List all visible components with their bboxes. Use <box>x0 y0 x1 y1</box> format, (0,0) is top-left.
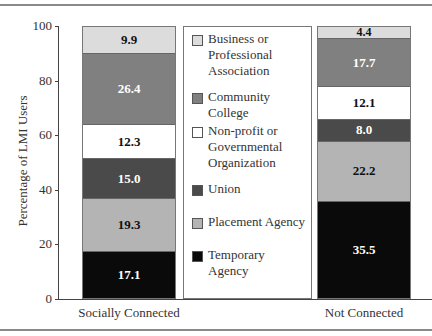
segment-value-label: 22.2 <box>353 163 376 179</box>
bar-not-connected: 35.522.28.012.117.74.4 <box>317 26 411 299</box>
legend-swatch-icon <box>192 35 203 46</box>
bar-segment-placement-agency: 19.3 <box>83 199 175 251</box>
segment-value-label: 4.4 <box>357 25 372 40</box>
y-tick-label: 60 <box>22 128 52 141</box>
bar-segment-placement-agency: 22.2 <box>318 142 410 202</box>
legend-label-line: Business or <box>208 31 272 47</box>
segment-value-label: 8.0 <box>356 122 372 138</box>
y-tick-mark <box>55 190 59 191</box>
y-tick-label: 80 <box>22 74 52 87</box>
bar-segment-union: 15.0 <box>83 159 175 200</box>
y-tick-mark <box>55 26 59 27</box>
x-axis-line <box>55 299 432 300</box>
legend-label-line: Non-profit or <box>208 123 282 139</box>
segment-value-label: 35.5 <box>353 242 376 258</box>
segment-value-label: 19.3 <box>118 217 141 233</box>
bar-segment-non-profit-or-governmental-organization: 12.1 <box>318 87 410 120</box>
bar-segment-non-profit-or-governmental-organization: 12.3 <box>83 125 175 158</box>
legend-swatch-icon <box>192 93 203 104</box>
legend: Business orProfessionalAssociationCommun… <box>183 26 312 299</box>
legend-label-line: Professional <box>208 47 272 63</box>
bar-segment-community-college: 17.7 <box>318 39 410 87</box>
legend-swatch-icon <box>192 251 203 262</box>
legend-item-non-profit-or-governmental-organization: Non-profit orGovernmentalOrganization <box>192 123 307 171</box>
legend-label: Community College <box>208 89 307 121</box>
legend-item-community-college: Community College <box>192 89 307 121</box>
bottom-rule <box>0 329 432 331</box>
legend-label-line: Placement Agency <box>208 214 305 230</box>
segment-value-label: 17.7 <box>353 55 376 71</box>
bar-segment-business-or-professional-association: 9.9 <box>83 27 175 54</box>
segment-value-label: 26.4 <box>118 81 141 97</box>
bar-segment-temporary-agency: 17.1 <box>83 252 175 298</box>
legend-swatch-icon <box>192 127 203 138</box>
legend-item-placement-agency: Placement Agency <box>192 214 307 230</box>
y-tick-label: 40 <box>22 183 52 196</box>
y-axis-label: Percentage of LMI Users <box>15 76 31 246</box>
bar-socially-connected: 17.119.315.012.326.49.9 <box>82 26 176 299</box>
legend-label-line: Temporary Agency <box>208 247 307 279</box>
segment-value-label: 12.3 <box>118 134 141 150</box>
x-label-socially-connected: Socially Connected <box>72 305 186 321</box>
legend-label-line: Association <box>208 63 272 79</box>
legend-label: Placement Agency <box>208 214 305 230</box>
y-tick-label: 0 <box>22 292 52 305</box>
x-label-not-connected: Not Connected <box>310 305 418 321</box>
y-tick-mark <box>55 81 59 82</box>
y-tick-mark <box>55 135 59 136</box>
legend-label-line: Organization <box>208 155 282 171</box>
y-tick-mark <box>55 299 59 300</box>
y-axis-line <box>58 26 59 300</box>
segment-value-label: 9.9 <box>121 32 137 48</box>
top-rule <box>0 4 432 6</box>
bar-segment-union: 8.0 <box>318 120 410 142</box>
segment-value-label: 12.1 <box>353 95 376 111</box>
legend-item-temporary-agency: Temporary Agency <box>192 247 307 279</box>
legend-swatch-icon <box>192 218 203 229</box>
legend-swatch-icon <box>192 185 203 196</box>
legend-label-line: Community College <box>208 89 307 121</box>
bar-segment-temporary-agency: 35.5 <box>318 202 410 298</box>
bar-segment-community-college: 26.4 <box>83 54 175 126</box>
segment-value-label: 15.0 <box>118 171 141 187</box>
y-tick-label: 100 <box>22 19 52 32</box>
legend-label: Business orProfessionalAssociation <box>208 31 272 79</box>
y-tick-label: 20 <box>22 237 52 250</box>
legend-item-business-or-professional-association: Business orProfessionalAssociation <box>192 31 307 79</box>
bar-segment-business-or-professional-association: 4.4 <box>318 27 410 39</box>
legend-label: Non-profit orGovernmentalOrganization <box>208 123 282 171</box>
legend-label-line: Governmental <box>208 139 282 155</box>
legend-label-line: Union <box>208 181 241 197</box>
segment-value-label: 17.1 <box>118 267 141 283</box>
legend-label: Union <box>208 181 241 197</box>
legend-label: Temporary Agency <box>208 247 307 279</box>
y-tick-mark <box>55 244 59 245</box>
legend-item-union: Union <box>192 181 307 197</box>
